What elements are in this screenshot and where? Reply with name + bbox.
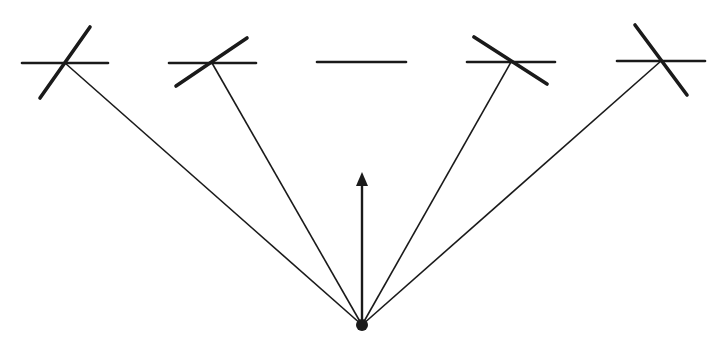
up-arrow-icon [356, 172, 368, 325]
arrow-head [356, 172, 368, 186]
connector-line-2 [212, 63, 362, 325]
element-5 [617, 25, 705, 95]
tilted-elements [22, 25, 705, 98]
element-1 [22, 27, 108, 98]
element-2 [169, 38, 256, 86]
connector-line-5 [362, 61, 661, 325]
origin-point [356, 319, 368, 331]
connector-line-4 [362, 62, 511, 325]
connector-line-1 [65, 63, 362, 325]
element-4 [467, 37, 555, 84]
tilted-segment [474, 37, 547, 84]
diagram-canvas [0, 0, 727, 341]
